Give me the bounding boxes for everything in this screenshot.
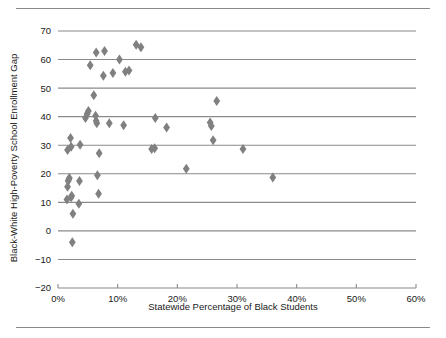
x-axis-title: Statewide Percentage of Black Students (148, 301, 318, 312)
y-axis-title: Black-White High-Poverty School Enrollme… (8, 54, 19, 263)
data-point (120, 120, 127, 130)
data-point (101, 46, 108, 56)
data-point (77, 140, 84, 150)
x-tick-label: 10% (108, 293, 128, 304)
y-tick-label: 50 (40, 83, 51, 94)
data-point (116, 55, 123, 65)
data-point (152, 113, 159, 123)
x-tick-label: 0% (51, 293, 65, 304)
data-point (96, 148, 103, 158)
x-tick-label: 60% (406, 293, 426, 304)
data-point (109, 68, 116, 78)
data-point (163, 123, 170, 133)
y-tick-label: 40 (40, 111, 51, 122)
y-tick-label: −10 (35, 254, 51, 265)
y-tick-label: 0 (46, 225, 51, 236)
data-point (183, 164, 190, 174)
data-point (100, 71, 107, 81)
data-point (106, 118, 113, 128)
data-point-group (64, 40, 277, 248)
y-tick-label: 10 (40, 197, 51, 208)
y-tick-label: 20 (40, 168, 51, 179)
y-tick-label: 70 (40, 25, 51, 36)
x-tick-group (58, 284, 416, 288)
scatter-plot: −20−10010203040506070 0%10%20%30%40%50%6… (0, 0, 446, 338)
data-point (90, 90, 97, 100)
chart-svg: −20−10010203040506070 0%10%20%30%40%50%6… (0, 0, 446, 338)
x-tick-label: 50% (347, 293, 367, 304)
data-point (67, 133, 74, 143)
data-point (75, 199, 82, 209)
y-tick-label: 60 (40, 54, 51, 65)
data-point (69, 237, 76, 247)
gridlines-group (58, 31, 416, 259)
data-point (87, 60, 94, 70)
data-point (213, 96, 220, 106)
y-tick-label: −20 (35, 282, 51, 293)
data-point (70, 209, 77, 219)
data-point (76, 176, 83, 186)
data-point (95, 189, 102, 199)
figure-container: −20−10010203040506070 0%10%20%30%40%50%6… (0, 0, 446, 338)
y-tick-label-group: −20−10010203040506070 (35, 25, 51, 293)
data-point (94, 170, 101, 180)
data-point (210, 135, 217, 145)
data-point (93, 47, 100, 57)
y-tick-label: 30 (40, 140, 51, 151)
